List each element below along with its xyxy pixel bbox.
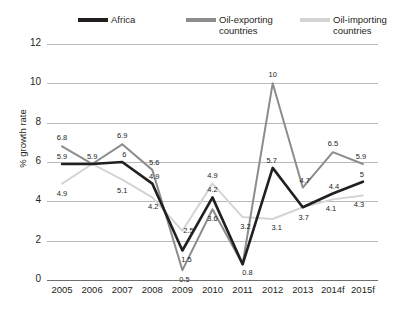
x-axis-tick: 2007 — [112, 284, 133, 295]
y-axis-title: % growth rate — [17, 97, 28, 181]
data-point-label: 3.2 — [240, 222, 250, 231]
series-lines — [47, 44, 378, 280]
cropped-title-strip — [0, 0, 395, 11]
x-axis-tick: 2006 — [82, 284, 103, 295]
legend-swatch-africa — [78, 18, 108, 22]
x-axis-tick: 2013 — [292, 284, 313, 295]
x-axis-tick: 2012 — [262, 284, 283, 295]
data-point-label: 0.8 — [242, 268, 252, 277]
x-axis-line — [47, 280, 378, 281]
data-point-label: 6.8 — [57, 133, 67, 142]
legend-label-africa: Africa — [111, 14, 135, 25]
legend-item-africa: Africa — [78, 14, 135, 25]
chart-figure: Africa Oil-exporting countries Oil-impor… — [0, 0, 395, 310]
y-axis-tick: 6 — [35, 155, 41, 166]
x-axis-tick: 2005 — [51, 284, 72, 295]
data-point-label: 4.9 — [207, 170, 217, 179]
x-axis-tick: 2011 — [232, 284, 252, 295]
data-point-label: 10 — [269, 70, 277, 79]
data-point-label: 1.5 — [181, 254, 191, 263]
x-axis-tick: 2015f — [351, 284, 375, 295]
data-point-label: 4.1 — [326, 204, 336, 213]
data-point-label: 5.6 — [149, 157, 159, 166]
data-point-label: 4.9 — [57, 188, 67, 197]
data-point-label: 5 — [360, 169, 364, 178]
y-axis-tick: 2 — [35, 234, 41, 245]
data-point-label: 6.5 — [328, 139, 338, 148]
y-axis-tick: 4 — [35, 194, 41, 205]
y-axis-tick: 8 — [35, 116, 41, 127]
x-axis-tick: 2009 — [172, 284, 193, 295]
x-axis-tick: 2014f — [321, 284, 345, 295]
x-axis-tick: 2008 — [142, 284, 163, 295]
data-point-label: 2.5 — [183, 225, 193, 234]
data-point-label: 6.9 — [117, 131, 127, 140]
data-point-label: 5.9 — [356, 151, 366, 160]
data-point-label: 5.9 — [87, 151, 97, 160]
data-point-label: 6 — [122, 150, 126, 159]
data-point-label: 5.1 — [117, 185, 127, 194]
data-point-label: 5.9 — [57, 151, 67, 160]
legend-item-oil-importing: Oil-importing countries — [300, 14, 387, 36]
legend-swatch-oil-importing — [300, 18, 330, 22]
data-point-label: 4.3 — [354, 200, 364, 209]
legend-label-oil-importing: Oil-importing countries — [333, 14, 387, 36]
y-axis-tick: 10 — [30, 76, 41, 87]
legend-swatch-oil-exporting — [186, 18, 216, 22]
legend-label-oil-exporting: Oil-exporting countries — [219, 14, 273, 36]
data-point-label: 3.7 — [299, 213, 309, 222]
data-point-label: 5.7 — [266, 155, 276, 164]
chart-legend: Africa Oil-exporting countries Oil-impor… — [78, 14, 390, 42]
data-point-label: 3.1 — [271, 223, 281, 232]
legend-item-oil-exporting: Oil-exporting countries — [186, 14, 273, 36]
data-point-label: 4.4 — [329, 182, 339, 191]
y-axis-tick: 0 — [35, 273, 41, 284]
x-axis-tick: 2010 — [202, 284, 223, 295]
data-point-label: 4.2 — [207, 185, 217, 194]
data-point-label: 4.9 — [149, 171, 159, 180]
data-point-label: 4.7 — [300, 175, 310, 184]
y-axis-tick: 12 — [30, 37, 41, 48]
x-axis-labels: 2005200620072008200920102011201220132014… — [40, 284, 390, 302]
plot-area: 024681012 6.85.94.95.96.965.15.64.94.22.… — [47, 44, 378, 280]
data-point-label: 3.6 — [207, 214, 217, 223]
data-point-label: 4.2 — [148, 202, 158, 211]
